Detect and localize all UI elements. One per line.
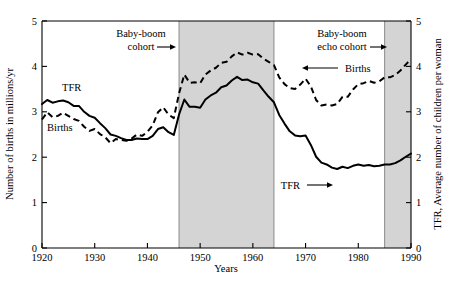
y-tick-label: 4 — [32, 61, 38, 72]
births-tfr-line-chart: 19201930194019501960197019801990 012345 … — [0, 0, 453, 283]
y-tick-label: 5 — [32, 16, 37, 27]
y-axis-left-tick-labels: 012345 — [32, 16, 38, 254]
annotation-baby-boom-line2: cohort — [128, 41, 155, 52]
y-axis-right-title: TFR, Average number of children per woma… — [432, 38, 443, 230]
x-tick-label: 1990 — [401, 252, 422, 263]
y2-tick-label: 3 — [416, 106, 421, 117]
x-tick-label: 1970 — [295, 252, 316, 263]
annotation-echo-line1: Baby-boom — [317, 28, 367, 39]
series-label-births: Births — [47, 122, 73, 133]
annotation-births-label: Births — [345, 63, 371, 74]
y-axis-left-ticks — [42, 21, 47, 248]
chart-figure: 19201930194019501960197019801990 012345 … — [0, 0, 453, 283]
annotation-baby-boom-line1: Baby-boom — [116, 28, 166, 39]
y-tick-label: 3 — [32, 106, 37, 117]
y-tick-label: 0 — [32, 243, 37, 254]
y2-tick-label: 1 — [416, 197, 421, 208]
x-axis-tick-labels: 19201930194019501960197019801990 — [32, 252, 422, 263]
annotation-echo-line2: echo cohort — [317, 41, 366, 52]
series-label-tfr: TFR — [62, 82, 81, 93]
x-tick-label: 1960 — [242, 252, 263, 263]
shaded-band-echo — [385, 21, 411, 248]
y-axis-right-tick-labels: 012345 — [416, 16, 422, 254]
y-tick-label: 2 — [32, 152, 37, 163]
annotation-arrowhead-tfr — [327, 182, 333, 188]
y2-tick-label: 2 — [416, 152, 421, 163]
x-tick-label: 1930 — [84, 252, 105, 263]
annotation-baby-boom-cohort: Baby-boom cohort — [116, 28, 176, 52]
x-tick-label: 1950 — [190, 252, 211, 263]
x-tick-label: 1940 — [137, 252, 158, 263]
y-axis-left-title: Number of births in millions/yr — [4, 68, 15, 200]
annotation-arrowhead-births — [302, 65, 308, 71]
y2-tick-label: 5 — [416, 16, 421, 27]
y-tick-label: 1 — [32, 197, 37, 208]
annotation-tfr-pointer: TFR — [281, 180, 333, 191]
y2-tick-label: 4 — [416, 61, 422, 72]
annotation-tfr-label: TFR — [281, 180, 300, 191]
x-axis-title: Years — [214, 263, 237, 274]
annotation-births-pointer: Births — [302, 63, 371, 74]
x-tick-label: 1980 — [348, 252, 369, 263]
annotation-arrowhead-baby-boom — [170, 44, 176, 50]
annotation-baby-boom-echo-cohort: Baby-boom echo cohort — [317, 28, 387, 52]
x-tick-label: 1920 — [32, 252, 53, 263]
y2-tick-label: 0 — [416, 243, 421, 254]
